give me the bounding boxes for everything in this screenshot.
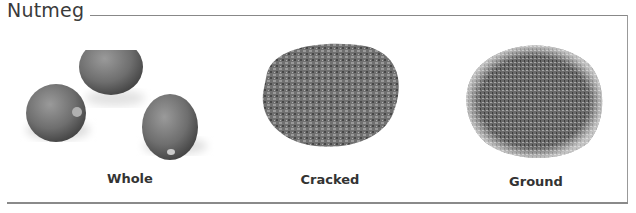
frame-bottom-rule [7, 202, 628, 204]
frame-top-rule [72, 15, 628, 16]
cracked-nutmeg-image [255, 38, 405, 153]
frame-right-rule [627, 15, 628, 203]
whole-nutmeg-image [20, 50, 220, 160]
caption-cracked: Cracked [270, 172, 390, 187]
ground-nutmeg-image [458, 38, 608, 163]
caption-ground: Ground [476, 174, 596, 189]
panel-title: Nutmeg [7, 0, 90, 22]
caption-whole: Whole [70, 171, 190, 186]
